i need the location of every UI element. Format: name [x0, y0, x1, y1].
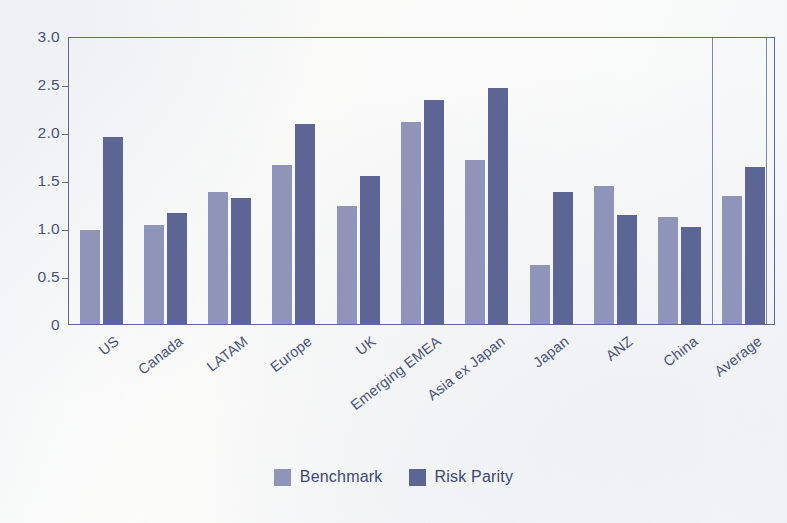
x-axis-tick-label-canada: Canada	[135, 333, 186, 378]
bar-benchmark-average	[722, 196, 742, 324]
bar-risk-parity-asia-ex-japan	[488, 88, 508, 324]
y-axis-tick-label: 1.0	[18, 220, 60, 238]
y-axis-tick-mark	[62, 182, 69, 183]
legend-swatch-icon	[274, 469, 291, 486]
bar-risk-parity-uk	[360, 176, 380, 324]
bar-benchmark-latam	[208, 192, 228, 324]
chart-legend: BenchmarkRisk Parity	[0, 468, 787, 486]
legend-label: Risk Parity	[435, 468, 514, 486]
x-axis-tick-label-us: US	[96, 333, 122, 358]
bar-benchmark-asia-ex-japan	[465, 160, 485, 324]
y-axis-tick-label: 3.0	[18, 28, 60, 46]
y-axis: 00.51.01.52.02.53.0	[8, 0, 60, 523]
y-axis-tick-mark	[62, 278, 69, 279]
bar-risk-parity-canada	[167, 213, 187, 324]
x-axis-tick-label-japan: Japan	[530, 333, 572, 371]
x-axis-tick-label-europe: Europe	[267, 333, 315, 375]
x-axis-tick-label-asia-ex-japan: Asia ex Japan	[424, 333, 508, 403]
bar-risk-parity-europe	[295, 124, 315, 324]
legend-item-risk-parity[interactable]: Risk Parity	[409, 468, 514, 486]
bar-risk-parity-anz	[617, 215, 637, 324]
y-axis-tick-label: 2.0	[18, 124, 60, 142]
y-axis-tick-label: 0.5	[18, 268, 60, 286]
bar-risk-parity-latam	[231, 198, 251, 324]
bar-risk-parity-average	[745, 167, 765, 324]
bar-benchmark-japan	[530, 265, 550, 324]
legend-swatch-icon	[409, 469, 426, 486]
x-axis-tick-label-latam: LATAM	[203, 333, 250, 375]
bar-risk-parity-china	[681, 227, 701, 324]
chart-page: 00.51.01.52.02.53.0 USCanadaLATAMEuropeU…	[0, 0, 787, 523]
bar-risk-parity-japan	[553, 192, 573, 324]
bar-benchmark-china	[658, 217, 678, 324]
legend-label: Benchmark	[300, 468, 383, 486]
bar-benchmark-europe	[272, 165, 292, 324]
y-axis-tick-mark	[62, 230, 69, 231]
bar-benchmark-emerging-emea	[401, 122, 421, 324]
bar-benchmark-anz	[594, 186, 614, 324]
bar-benchmark-canada	[144, 225, 164, 324]
x-axis-tick-label-anz: ANZ	[603, 333, 636, 364]
y-axis-tick-label: 2.5	[18, 76, 60, 94]
x-axis-tick-label-uk: UK	[353, 333, 379, 358]
x-axis-tick-label-emerging-emea: Emerging EMEA	[347, 333, 443, 413]
y-axis-tick-label: 0	[18, 316, 60, 334]
bar-benchmark-us	[80, 230, 100, 324]
x-axis-tick-label-average: Average	[711, 333, 764, 380]
bar-risk-parity-us	[103, 137, 123, 324]
bar-benchmark-uk	[337, 206, 357, 324]
y-axis-tick-label: 1.5	[18, 172, 60, 190]
legend-item-benchmark[interactable]: Benchmark	[274, 468, 383, 486]
plot-area	[68, 37, 775, 325]
x-axis-tick-label-china: China	[660, 333, 700, 370]
y-axis-tick-mark	[62, 134, 69, 135]
bars-container	[69, 38, 774, 324]
bar-risk-parity-emerging-emea	[424, 100, 444, 324]
y-axis-tick-mark	[62, 86, 69, 87]
